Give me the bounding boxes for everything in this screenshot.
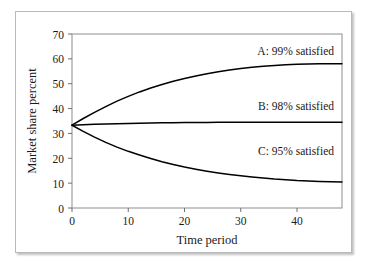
y-axis-title: Market share percent — [25, 68, 39, 174]
series-line-b — [72, 122, 342, 125]
x-axis-title: Time period — [177, 233, 239, 247]
y-tick-label: 50 — [53, 78, 65, 90]
figure-frame: 70 60 50 40 30 20 10 0 0 10 20 — [15, 11, 352, 253]
y-tick-label: 70 — [53, 29, 65, 41]
market-share-line-chart: 70 60 50 40 30 20 10 0 0 10 20 — [16, 12, 353, 254]
y-tick-label: 40 — [53, 103, 65, 115]
y-tick-label: 20 — [53, 153, 65, 165]
x-tick-label: 10 — [123, 215, 135, 227]
x-tick-label: 40 — [291, 215, 303, 227]
series-annotation-b: B: 98% satisfied — [258, 100, 334, 112]
x-tick-label: 20 — [179, 215, 191, 227]
chart-plot-area: 70 60 50 40 30 20 10 0 0 10 20 — [16, 12, 353, 254]
series-line-a — [72, 64, 342, 125]
series-annotation-c: C: 95% satisfied — [258, 145, 334, 157]
y-axis-ticks — [68, 34, 72, 208]
x-axis-tick-labels: 0 10 20 30 40 — [69, 215, 303, 227]
x-axis-ticks — [72, 208, 297, 212]
y-tick-label: 60 — [53, 53, 65, 65]
y-axis-tick-labels: 70 60 50 40 30 20 10 0 — [53, 29, 65, 215]
series-annotation-a: A: 99% satisfied — [257, 45, 334, 57]
x-tick-label: 30 — [235, 215, 247, 227]
y-tick-label: 30 — [53, 128, 65, 140]
figure-caption-strip — [0, 257, 369, 272]
plot-border — [72, 34, 342, 208]
y-tick-label: 10 — [53, 178, 65, 190]
x-tick-label: 0 — [69, 215, 75, 227]
y-tick-label: 0 — [58, 203, 64, 215]
